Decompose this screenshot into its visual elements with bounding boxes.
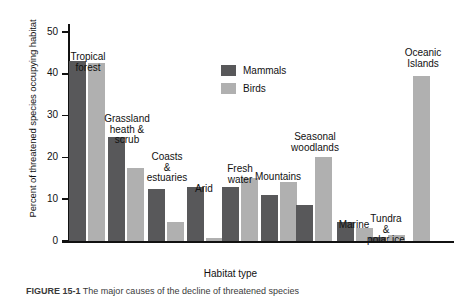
bar-mammals xyxy=(261,195,278,241)
chart-legend: MammalsBirds xyxy=(221,62,286,98)
legend-item: Birds xyxy=(221,80,286,96)
bar-mammals xyxy=(296,205,313,241)
y-tick-40 xyxy=(62,73,69,75)
legend-swatch xyxy=(221,83,236,94)
bar-birds xyxy=(413,76,430,241)
y-tick-label-50: 50 xyxy=(30,26,58,37)
figure-caption: FIGURE 15-1 The major causes of the decl… xyxy=(26,286,446,297)
bar-mammals xyxy=(148,189,165,241)
figure-caption-text: The major causes of the decline of threa… xyxy=(83,286,299,296)
bar-mammals xyxy=(108,137,125,242)
figure-number: FIGURE 15-1 xyxy=(26,286,81,296)
legend-item: Mammals xyxy=(221,62,286,78)
bar-mammals xyxy=(187,187,204,241)
y-tick-label-20: 20 xyxy=(30,151,58,162)
x-axis-title: Habitat type xyxy=(0,268,461,279)
bar-group: Arid xyxy=(187,24,223,241)
y-tick-50 xyxy=(62,31,69,33)
y-tick-label-30: 30 xyxy=(30,109,58,120)
y-tick-30 xyxy=(62,115,69,117)
bar-mammals xyxy=(69,61,86,241)
bar-birds xyxy=(167,222,184,241)
bar-group: Seasonal woodlands xyxy=(296,24,332,241)
y-tick-label-0: 0 xyxy=(30,235,58,246)
bar-group: Grassland heath & scrub xyxy=(108,24,144,241)
bar-group: Marine xyxy=(337,24,373,241)
legend-label: Birds xyxy=(243,83,266,94)
bar-birds xyxy=(88,63,105,241)
legend-label: Mammals xyxy=(243,65,286,76)
bar-chart-figure: Percent of threatened species occupying … xyxy=(0,0,461,297)
y-tick-label-10: 10 xyxy=(30,193,58,204)
legend-swatch xyxy=(221,65,236,76)
y-tick-20 xyxy=(62,157,69,159)
bar-group: Oceanic Islands xyxy=(404,24,440,241)
bar-mammals xyxy=(222,187,239,241)
bar-birds xyxy=(206,238,223,241)
bar-birds xyxy=(241,178,258,241)
y-tick-10 xyxy=(62,198,69,200)
bar-birds xyxy=(280,182,297,241)
category-label: Oceanic Islands xyxy=(384,48,461,69)
bar-group: Coasts & estuaries xyxy=(148,24,184,241)
bar-group: Fresh water xyxy=(222,24,258,241)
plot-area: Tropical forestGrassland heath & scrubCo… xyxy=(69,24,454,241)
